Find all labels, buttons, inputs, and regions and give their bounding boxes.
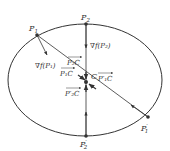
ellipse-gradient-diagram: P1 P2 P′1 P′2 C ∇f(P₁) ∇f(P₂) P₂C P₁C P′…: [0, 0, 170, 151]
label-p2: P2: [80, 13, 90, 23]
label-vec-p2pc: P′₂C: [64, 88, 81, 98]
label-grad-p2: ∇f(P₂): [90, 42, 111, 50]
point-p1prime: [146, 115, 150, 119]
point-c: [84, 80, 88, 84]
grad-arrow-p1: [37, 35, 47, 55]
label-c: C: [91, 72, 97, 81]
label-p1prime: P′1: [140, 123, 148, 134]
label-vec-p1pc: P′₁C: [97, 73, 113, 83]
label-p2prime: P′2: [79, 139, 88, 150]
vec-arrow-p1pc: [89, 84, 96, 89]
label-grad-p1: ∇f(P₁): [35, 62, 56, 70]
label-p1: P1: [28, 24, 38, 34]
svg-text:P′₂C: P′₂C: [64, 90, 80, 98]
point-p2prime: [84, 134, 88, 138]
svg-text:P′₁C: P′₁C: [97, 75, 113, 83]
svg-text:P₂C: P₂C: [66, 59, 81, 67]
vec-arrow-p1c: [78, 75, 85, 80]
label-vec-p2c: P₂C: [66, 57, 82, 67]
label-vec-p1c: P₁C: [59, 68, 75, 78]
svg-text:P₁C: P₁C: [59, 70, 74, 78]
grad-arrow-p1prime: [131, 105, 148, 117]
